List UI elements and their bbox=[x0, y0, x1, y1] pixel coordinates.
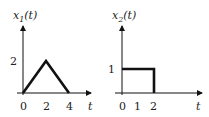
xtick-2: 2 bbox=[150, 100, 157, 113]
xtick-4: 4 bbox=[66, 100, 73, 113]
xtick-0: 0 bbox=[20, 100, 27, 113]
ytick-1: 1 bbox=[108, 63, 115, 76]
rect-pulse-signal bbox=[122, 69, 154, 93]
xtick-2: 2 bbox=[43, 100, 50, 113]
xlabel: t bbox=[88, 100, 93, 113]
plot-x1: x1(t) 2 0 2 4 t bbox=[10, 9, 93, 113]
svg-text:x1(t): x1(t) bbox=[13, 9, 37, 24]
figure: x1(t) 2 0 2 4 t x2(t) 1 0 1 2 t bbox=[0, 0, 209, 117]
xlabel: t bbox=[196, 100, 201, 113]
xtick-1: 1 bbox=[134, 100, 141, 113]
ytick-2: 2 bbox=[10, 55, 17, 68]
ylabel-arg: (t) bbox=[24, 9, 37, 22]
ylabel-arg: (t) bbox=[123, 9, 136, 22]
xtick-0: 0 bbox=[119, 100, 126, 113]
svg-text:x2(t): x2(t) bbox=[112, 9, 136, 24]
plot-x2: x2(t) 1 0 1 2 t bbox=[108, 9, 202, 113]
triangle-signal bbox=[23, 61, 69, 93]
